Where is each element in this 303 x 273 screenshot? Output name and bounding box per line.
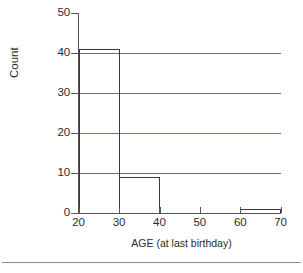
bottom-divider [2, 262, 301, 263]
y-tick-0 [71, 213, 78, 214]
plot-area: 50 40 30 20 10 0 20 30 40 50 60 70 AGE (… [0, 0, 303, 273]
y-tick-label-20: 20 [30, 126, 70, 138]
x-tick-20 [79, 207, 80, 214]
x-tick-50 [200, 207, 201, 214]
x-tick-label-20: 20 [59, 216, 99, 228]
y-tick-label-30: 30 [30, 86, 70, 98]
x-axis-label: AGE (at last birthday) [0, 237, 303, 249]
x-tick-40 [159, 207, 160, 214]
x-axis-line [78, 213, 281, 214]
y-tick-label-50: 50 [30, 6, 70, 18]
y-tick-10 [71, 173, 78, 174]
x-tick-label-50: 50 [180, 216, 220, 228]
x-tick-60 [240, 207, 241, 214]
y-tick-20 [71, 133, 78, 134]
y-tick-label-40: 40 [30, 46, 70, 58]
x-tick-30 [119, 207, 120, 214]
x-tick-label-30: 30 [99, 216, 139, 228]
y-tick-50 [71, 13, 78, 14]
y-tick-label-10: 10 [30, 166, 70, 178]
x-tick-70 [281, 207, 282, 214]
bar-bin-30-40 [119, 177, 160, 214]
histogram-figure: 50 40 30 20 10 0 20 30 40 50 60 70 AGE (… [0, 0, 303, 273]
y-axis-label: Count [8, 47, 20, 78]
y-tick-40 [71, 53, 78, 54]
y-tick-30 [71, 93, 78, 94]
x-tick-label-60: 60 [220, 216, 260, 228]
y-axis-line [78, 13, 79, 214]
bar-bin-20-30 [79, 49, 120, 214]
x-tick-label-40: 40 [139, 216, 179, 228]
x-tick-label-70: 70 [261, 216, 301, 228]
